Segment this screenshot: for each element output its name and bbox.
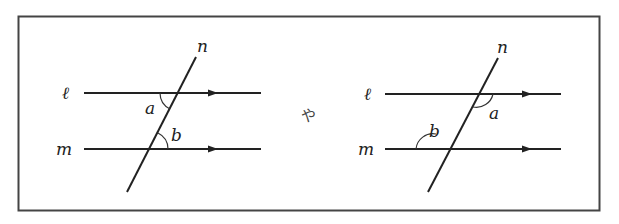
label-a: a — [145, 98, 155, 118]
arrow-m — [208, 146, 218, 153]
alternate-angles-figure: ℓ m n a b や ℓ m n a b — [0, 0, 619, 224]
left-diagram: ℓ m n a b — [56, 36, 261, 192]
label-b: b — [171, 125, 182, 145]
label-m: m — [358, 139, 374, 159]
arrow-l — [208, 90, 218, 97]
arrow-l — [522, 91, 532, 98]
label-n: n — [497, 37, 508, 57]
label-a: a — [489, 103, 499, 123]
label-l: ℓ — [364, 84, 371, 104]
label-l: ℓ — [62, 83, 69, 103]
angle-arc-a — [160, 93, 170, 109]
label-m: m — [56, 139, 72, 159]
transversal-n — [127, 57, 196, 192]
label-b: b — [429, 121, 440, 141]
angle-arc-b — [158, 133, 168, 149]
right-diagram: ℓ m n a b — [358, 37, 561, 192]
arrow-m — [522, 146, 532, 153]
separator-text: や — [301, 107, 316, 125]
label-n: n — [197, 36, 208, 56]
